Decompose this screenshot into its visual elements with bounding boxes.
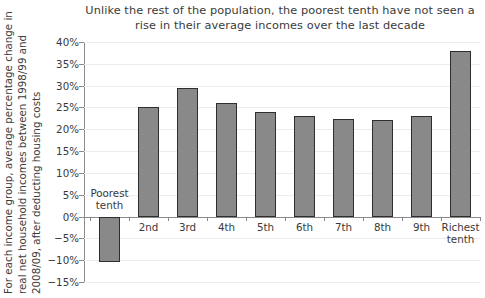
- x-tick-mark: [129, 217, 130, 221]
- x-axis-label: 4th: [218, 221, 235, 234]
- y-tick-mark: [79, 129, 84, 130]
- x-tick-mark: [246, 217, 247, 221]
- x-label-line: 5th: [257, 221, 274, 233]
- y-tick-label: 35%: [41, 58, 79, 70]
- y-tick-mark: [79, 238, 84, 239]
- x-label-line: Poorest: [90, 187, 128, 199]
- bar-chart: Unlike the rest of the population, the p…: [0, 0, 485, 298]
- bar: [333, 119, 355, 216]
- gridline: [84, 260, 480, 261]
- bar: [450, 51, 472, 217]
- y-tick-label: −5%: [41, 232, 79, 244]
- x-tick-mark: [480, 217, 481, 221]
- x-axis-label: 8th: [374, 221, 391, 234]
- chart-title: Unlike the rest of the population, the p…: [80, 3, 480, 33]
- chart-title-line-1: Unlike the rest of the population, the p…: [80, 3, 480, 18]
- gridline: [84, 238, 480, 239]
- y-tick-mark: [79, 107, 84, 108]
- x-tick-mark: [168, 217, 169, 221]
- x-label-line: 2nd: [139, 221, 159, 233]
- y-tick-label: 5%: [41, 189, 79, 201]
- gridline: [84, 282, 480, 283]
- y-tick-mark: [79, 42, 84, 43]
- y-tick-label: 0%: [41, 211, 79, 223]
- x-label-line: 3rd: [179, 221, 196, 233]
- bar: [411, 116, 433, 216]
- x-label-line: tenth: [442, 233, 480, 246]
- x-axis-label: 5th: [257, 221, 274, 234]
- y-tick-label: 30%: [41, 80, 79, 92]
- bar: [99, 217, 121, 263]
- y-tick-label: −15%: [41, 276, 79, 288]
- x-tick-mark: [402, 217, 403, 221]
- bar: [255, 112, 277, 217]
- x-axis-label: 9th: [413, 221, 430, 234]
- gridline: [84, 64, 480, 65]
- x-tick-mark: [324, 217, 325, 221]
- x-axis-label: 2nd: [139, 221, 159, 234]
- bar: [216, 103, 238, 216]
- y-axis-line: [84, 42, 85, 282]
- gridline: [84, 86, 480, 87]
- y-tick-mark: [79, 86, 84, 87]
- y-axis-title-line-2: real net household incomes between 1998/…: [16, 4, 28, 294]
- x-tick-mark: [207, 217, 208, 221]
- x-label-line: tenth: [90, 199, 128, 212]
- x-label-line: 4th: [218, 221, 235, 233]
- y-tick-label: 25%: [41, 101, 79, 113]
- bar: [372, 120, 394, 217]
- bar: [138, 107, 160, 216]
- y-tick-mark: [79, 195, 84, 196]
- bar: [294, 116, 316, 216]
- x-axis-label: Richesttenth: [442, 221, 480, 246]
- x-label-line: 6th: [296, 221, 313, 233]
- y-tick-label: 15%: [41, 145, 79, 157]
- y-tick-label: −10%: [41, 254, 79, 266]
- bar: [177, 88, 199, 217]
- zero-line: [84, 217, 480, 218]
- y-tick-mark: [79, 260, 84, 261]
- chart-title-line-2: rise in their average incomes over the l…: [80, 18, 480, 33]
- y-tick-label: 40%: [41, 36, 79, 48]
- x-label-line: 9th: [413, 221, 430, 233]
- x-axis-label: Pooresttenth: [90, 187, 128, 212]
- y-tick-mark: [79, 64, 84, 65]
- y-tick-mark: [79, 173, 84, 174]
- y-tick-label: 10%: [41, 167, 79, 179]
- x-axis-label: 3rd: [179, 221, 196, 234]
- x-tick-mark: [285, 217, 286, 221]
- x-tick-mark: [363, 217, 364, 221]
- y-tick-mark: [79, 217, 84, 218]
- plot-area: 40%35%30%25%20%15%10%5%0%−5%−10%−15% Poo…: [84, 42, 480, 282]
- y-tick-mark: [79, 282, 84, 283]
- y-tick-mark: [79, 151, 84, 152]
- x-tick-mark: [90, 217, 91, 221]
- x-label-line: 8th: [374, 221, 391, 233]
- gridline: [84, 42, 480, 43]
- x-axis-label: 6th: [296, 221, 313, 234]
- x-axis-label: 7th: [335, 221, 352, 234]
- x-label-line: 7th: [335, 221, 352, 233]
- x-label-line: Richest: [442, 221, 480, 233]
- y-axis-title-line-1: For each income group, average percentag…: [2, 4, 14, 294]
- y-tick-label: 20%: [41, 123, 79, 135]
